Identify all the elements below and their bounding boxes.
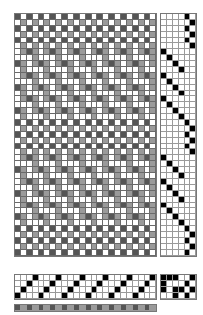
drawdown-grid	[14, 13, 157, 257]
warp-color-cell	[150, 305, 156, 311]
tieup-grid	[160, 274, 197, 300]
treadling-grid	[160, 13, 197, 257]
tieup-cell	[190, 293, 196, 299]
threading-grid	[14, 274, 157, 300]
warp-color-strip	[14, 304, 157, 312]
treadling-cell	[190, 250, 196, 256]
drawdown-cell	[150, 250, 156, 256]
threading-cell	[150, 293, 156, 299]
